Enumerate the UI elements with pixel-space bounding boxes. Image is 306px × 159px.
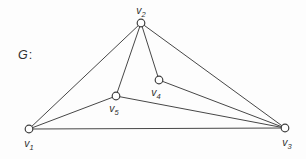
edge-v5-v3 <box>116 96 285 128</box>
vertex-label-v5: v5 <box>109 102 119 117</box>
edges-layer <box>29 23 285 129</box>
edge-v4-v3 <box>159 80 285 128</box>
vertex-v4 <box>155 76 163 84</box>
vertex-v2 <box>137 19 145 27</box>
vertex-v5 <box>112 92 120 100</box>
edge-v1-v3 <box>29 128 285 129</box>
vertex-v3 <box>281 124 289 132</box>
graph-canvas: v1v2v3v4v5 <box>0 0 306 159</box>
vertex-label-v1: v1 <box>24 137 33 152</box>
vertex-v1 <box>25 125 33 133</box>
vertex-label-v2: v2 <box>136 4 146 19</box>
edge-v2-v5 <box>116 23 141 96</box>
graph-figure: G: v1v2v3v4v5 <box>0 0 306 159</box>
vertex-label-v4: v4 <box>151 86 160 101</box>
edge-v2-v4 <box>141 23 159 80</box>
edge-v1-v5 <box>29 96 116 129</box>
edge-v1-v2 <box>29 23 141 129</box>
vertex-label-v3: v3 <box>282 136 292 151</box>
edge-v2-v3 <box>141 23 285 128</box>
